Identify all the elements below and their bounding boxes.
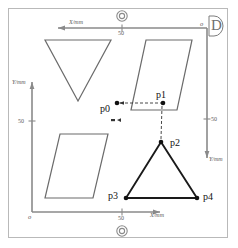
right-y-axis-label: Y/mm (209, 156, 223, 162)
corner-tag-letter: D (211, 18, 222, 33)
registration-mark-bottom (117, 226, 127, 236)
top-x-axis-label: X/mm (69, 19, 83, 25)
inverted-triangle-upper-left (45, 40, 111, 101)
point-label-p4: p4 (203, 192, 213, 202)
point-dot-p0[interactable] (115, 101, 120, 106)
left-y-axis-tick-50: 50 (18, 118, 24, 124)
bottom-left-origin-label: o (28, 214, 31, 221)
bottom-x-axis-tick-50: 50 (118, 215, 124, 221)
right-y-axis-tick-50: 50 (211, 116, 217, 122)
bottom-x-axis-line (32, 209, 160, 216)
top-x-axis-tick-50: 50 (118, 30, 124, 36)
bottom-x-axis-label: X/mm (150, 212, 164, 218)
double-dash-marker (111, 118, 121, 122)
registration-mark-top (117, 11, 127, 21)
left-y-axis-label: Y/mm (12, 79, 26, 85)
dashed-arrow-p0-to-p1 (119, 101, 161, 104)
point-label-p0: p0 (100, 104, 110, 114)
dashed-arrow-p1-to-p2 (161, 106, 162, 139)
point-dot-p3[interactable] (124, 196, 129, 201)
point-dot-p4[interactable] (195, 196, 200, 201)
figure-root: X/mm 50 o Y/mm 50 50 Y/mm o 50 X/mm p0 p… (0, 0, 238, 248)
point-label-p1: p1 (156, 90, 166, 100)
top-right-origin-label: o (200, 21, 203, 28)
top-x-axis-line (58, 25, 207, 32)
figure-canvas (0, 0, 238, 248)
point-label-p3: p3 (108, 191, 118, 201)
point-dot-p2[interactable] (159, 140, 164, 145)
parallelogram-lower-left (45, 134, 108, 198)
point-dot-p1[interactable] (161, 101, 166, 106)
triangle-lower-right (126, 142, 197, 198)
right-y-axis-line (204, 28, 211, 158)
left-y-axis-line (29, 82, 36, 212)
point-label-p2: p2 (170, 138, 180, 148)
